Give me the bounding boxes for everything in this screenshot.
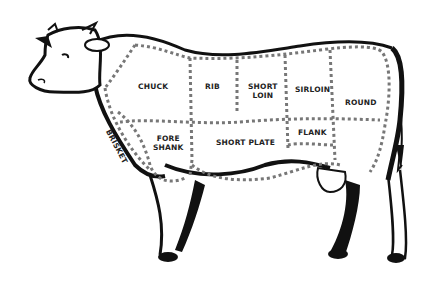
cow-hoof [158,252,178,262]
cow-illustration [0,0,429,282]
cut-label-short-loin: SHORT LOIN [248,82,278,100]
cut-label-sirloin: SIRLOIN [295,85,330,94]
cut-label-fore-shank: FORE SHANK [153,134,184,152]
cut-label-flank: FLANK [298,128,327,137]
cow-ear-right [85,39,109,51]
cut-boundary-lines [105,45,389,181]
cow-hoof [328,249,348,259]
cow-horn [48,24,58,32]
cow-hind-leg-back [388,170,406,258]
cut-label-fore-shank-line2: SHANK [153,143,184,152]
cow-fore-leg-front [150,175,162,255]
cut-label-chuck: CHUCK [138,82,168,91]
cow-back-outline [95,35,392,55]
cut-label-short-plate: SHORT PLATE [216,138,275,147]
cut-label-short-loin-line2: LOIN [248,91,278,100]
cow-hoof [387,253,405,263]
cut-label-round: ROUND [345,98,377,107]
cut-label-rib: RIB [205,82,220,91]
cow-fore-leg-back [175,180,205,252]
cut-label-fore-shank-line1: FORE [153,134,184,143]
cut-label-short-loin-line1: SHORT [248,82,278,91]
cow-udder [317,168,345,192]
